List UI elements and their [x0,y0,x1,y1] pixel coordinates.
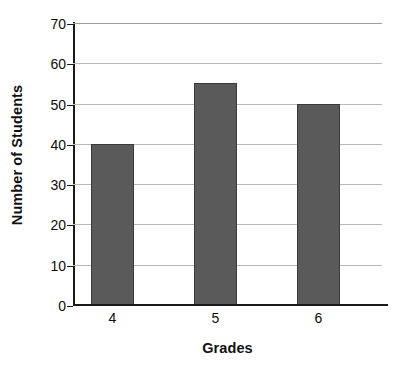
y-axis-title-text: Number of Students [9,85,25,225]
x-axis-tick-label: 5 [212,310,220,326]
y-axis-tick-label: 30 [36,177,66,193]
bar [194,83,237,305]
y-axis-tick-label: 60 [36,56,66,72]
x-axis-title: Grades [73,340,382,356]
bar-chart-figure: Number of Students 010203040506070 456 G… [0,0,396,370]
bar [91,144,134,305]
y-axis-tick-label: 10 [36,258,66,274]
x-axis-tick-label: 4 [109,310,117,326]
y-axis-tick-label: 70 [36,16,66,32]
y-axis-tick-label: 20 [36,217,66,233]
y-axis-tick-label: 50 [36,97,66,113]
plot-area [73,23,382,305]
y-axis-tick-label: 40 [36,137,66,153]
bars-layer [73,23,382,305]
y-axis-tick-mark [67,306,73,307]
bar [297,104,340,305]
x-axis-line [73,304,388,306]
x-axis-tick-labels: 456 [73,310,382,334]
y-axis-tick-labels: 010203040506070 [36,24,66,305]
y-axis-tick-label: 0 [36,298,66,314]
y-axis-title: Number of Students [0,0,34,310]
x-axis-tick-label: 6 [315,310,323,326]
